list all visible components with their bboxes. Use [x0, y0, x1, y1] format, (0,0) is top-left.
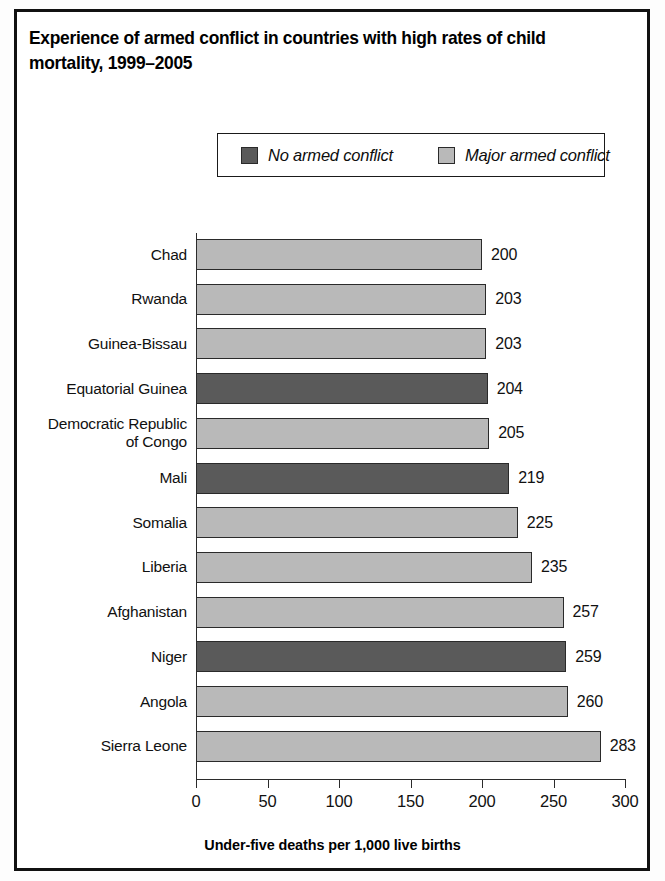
legend-item-no-armed-conflict: No armed conflict	[241, 146, 393, 165]
chart-legend: No armed conflict Major armed conflict	[217, 133, 605, 177]
x-axis-title: Under-five deaths per 1,000 live births	[13, 836, 651, 853]
legend-item-major-armed-conflict: Major armed conflict	[438, 146, 610, 165]
legend-swatch-major-armed-conflict	[438, 147, 455, 164]
chart-title: Experience of armed conflict in countrie…	[29, 25, 574, 75]
legend-label-no-armed-conflict: No armed conflict	[268, 146, 393, 165]
legend-row: No armed conflict Major armed conflict	[218, 134, 604, 176]
legend-label-major-armed-conflict: Major armed conflict	[465, 146, 610, 165]
figure-root: Experience of armed conflict in countrie…	[0, 0, 665, 881]
legend-swatch-no-armed-conflict	[241, 147, 258, 164]
